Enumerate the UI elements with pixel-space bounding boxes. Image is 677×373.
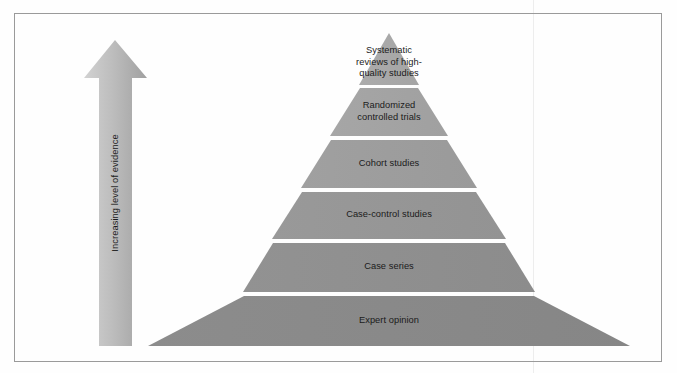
pyramid-tier-6	[148, 296, 630, 346]
evidence-pyramid-figure	[0, 0, 677, 373]
pyramid-tier-3	[301, 140, 477, 188]
pyramid-tier-4	[272, 192, 506, 239]
pyramid-tier-5	[243, 243, 535, 292]
increasing-evidence-arrow-label: Increasing level of evidence	[110, 134, 120, 252]
figure-page: Systematic reviews of high- quality stud…	[0, 0, 677, 373]
pyramid-tier-1	[359, 33, 419, 85]
pyramid-tier-2	[330, 88, 448, 136]
